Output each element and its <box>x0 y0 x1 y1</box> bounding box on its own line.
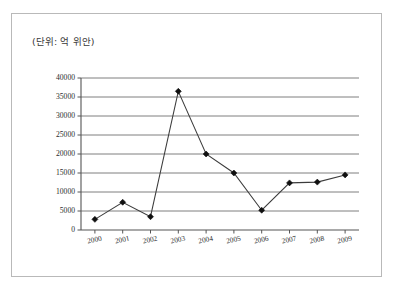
x-tick-label: 2003 <box>170 234 187 246</box>
series-line <box>95 91 345 219</box>
x-tick-label: 2001 <box>114 234 131 246</box>
x-tick-label: 2008 <box>309 234 326 246</box>
data-point-marker <box>175 88 181 94</box>
y-tick-label: 40000 <box>56 73 75 82</box>
chart-svg: 0500010000150002000025000300003500040000… <box>0 0 414 294</box>
x-tick-label: 2000 <box>86 234 103 246</box>
x-tick-label: 2007 <box>281 234 298 246</box>
x-tick-label: 2002 <box>142 234 159 246</box>
figure-canvas: (단위: 억 위안) 05000100001500020000250003000… <box>0 0 414 294</box>
line-chart: 0500010000150002000025000300003500040000… <box>0 0 414 294</box>
x-tick-label: 2005 <box>225 234 242 246</box>
gridlines-group <box>81 78 359 211</box>
data-point-marker <box>203 151 209 157</box>
data-point-marker <box>92 216 98 222</box>
data-point-marker <box>120 199 126 205</box>
y-tick-label: 35000 <box>56 92 75 101</box>
data-point-marker <box>148 214 154 220</box>
data-point-marker <box>314 179 320 185</box>
y-tick-label: 10000 <box>56 187 75 196</box>
y-tick-label: 5000 <box>60 206 75 215</box>
y-tick-label: 30000 <box>56 111 75 120</box>
data-point-markers-group <box>92 88 348 222</box>
x-tick-label: 2009 <box>336 234 353 246</box>
x-tick-labels-group: 2000200120022003200420052006200720082009 <box>86 234 353 246</box>
y-tick-labels-group: 0500010000150002000025000300003500040000 <box>56 73 75 234</box>
x-tick-label: 2004 <box>197 234 214 246</box>
y-tick-label: 0 <box>71 225 75 234</box>
y-tick-label: 15000 <box>56 168 75 177</box>
y-tick-label: 20000 <box>56 149 75 158</box>
x-tick-label: 2006 <box>253 234 270 246</box>
y-tick-label: 25000 <box>56 130 75 139</box>
